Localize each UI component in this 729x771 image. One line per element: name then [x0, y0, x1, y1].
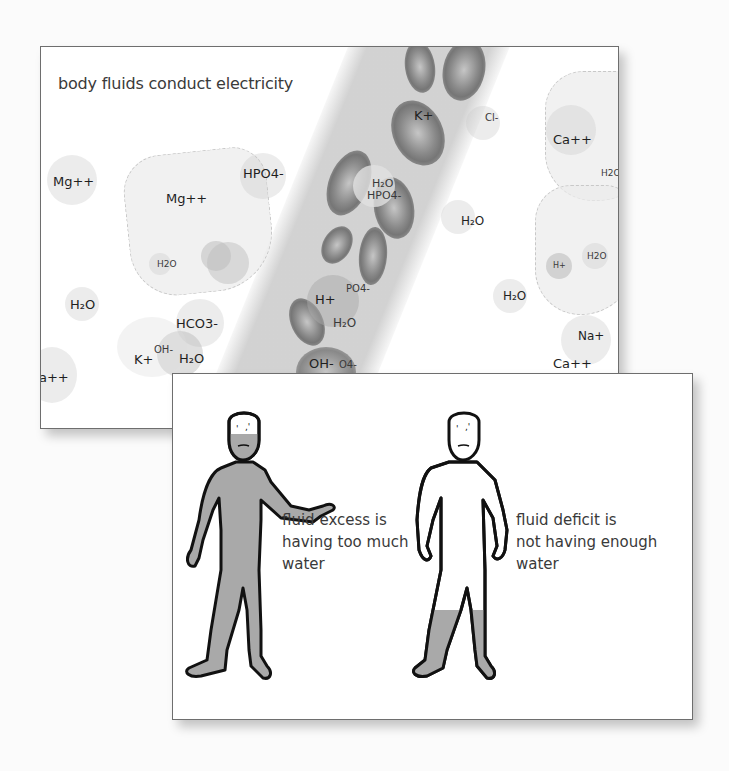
caption-line: fluid deficit is: [516, 509, 657, 531]
caption-line: having too much: [282, 531, 408, 553]
ion-label: Ca++: [553, 133, 592, 146]
ion-label: H₂O: [503, 290, 526, 302]
ion-label: H2O: [587, 252, 607, 261]
ion-label: H₂O: [179, 352, 204, 365]
ion-label: H+: [315, 293, 336, 306]
ion-label: HPO4-: [243, 167, 284, 180]
ion-label: H2O: [601, 169, 619, 178]
ion-halo: [546, 105, 596, 155]
ion-label: K+: [414, 109, 433, 122]
ion-label: OH-: [309, 357, 334, 370]
ion-label: Na+: [578, 330, 604, 342]
fluid-excess-caption: fluid excess is having too much water: [282, 509, 408, 575]
svg-text:': ': [236, 424, 238, 434]
ion-halo: [201, 241, 231, 271]
ion-label: a++: [40, 371, 69, 384]
caption-line: fluid excess is: [282, 509, 408, 531]
ion-scene: body fluids conduct electricity Mg++ Mg+…: [41, 47, 618, 428]
svg-text:': ': [456, 424, 458, 434]
caption-line: not having enough: [516, 531, 657, 553]
ion-label: OH-: [154, 345, 173, 355]
ion-label: Mg++: [53, 175, 94, 188]
ion-label: H+: [553, 262, 566, 270]
ion-label: HCO3-: [176, 317, 218, 330]
ion-label: Mg++: [166, 192, 207, 205]
ion-label: Ca++: [553, 357, 592, 370]
ion-label: H2O: [157, 260, 177, 269]
ion-label: HPO4-: [367, 190, 402, 201]
ion-label: H₂O: [372, 178, 393, 189]
caption-line: water: [516, 553, 657, 575]
body-fluids-panel: body fluids conduct electricity Mg++ Mg+…: [40, 46, 619, 429]
fluid-balance-panel: ' ,' fluid excess is having too much wat…: [172, 373, 693, 720]
panel-title: body fluids conduct electricity: [58, 74, 293, 93]
ion-label: H₂O: [70, 298, 95, 311]
ion-label: H₂O: [333, 317, 356, 329]
caption-line: water: [282, 553, 408, 575]
svg-text:,': ,': [245, 422, 250, 432]
fluid-deficit-caption: fluid deficit is not having enough water: [516, 509, 657, 575]
ion-label: Cl-: [485, 113, 498, 123]
person-low-water-icon: ' ,': [414, 413, 508, 678]
fluid-deficit-figure: ' ,': [411, 410, 531, 680]
ion-label: PO4-: [346, 284, 370, 294]
svg-text:,': ,': [465, 422, 470, 432]
ion-label: O4-: [339, 360, 357, 370]
ion-label: H₂O: [461, 215, 484, 227]
ion-label: K+: [134, 353, 153, 366]
